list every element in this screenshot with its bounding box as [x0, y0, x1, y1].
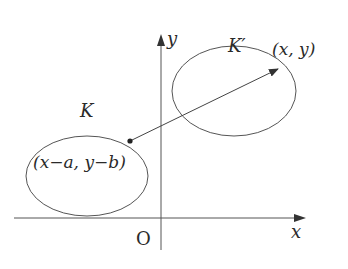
- y-axis-label: y: [166, 28, 178, 49]
- region-k-prime-label: K′: [227, 35, 246, 56]
- translation-diagram: y x O K K′ (x−a, y−b) (x, y): [0, 0, 348, 269]
- original-point-dot: [127, 138, 132, 143]
- region-k-label: K: [79, 100, 95, 121]
- y-axis-arrowhead-icon: [157, 34, 165, 46]
- original-point-label: (x−a, y−b): [33, 152, 126, 172]
- origin-label: O: [136, 228, 151, 249]
- x-axis: [14, 214, 306, 222]
- image-point-label: (x, y): [272, 39, 315, 59]
- region-k-prime-ellipse: [172, 46, 296, 136]
- region-k-ellipse: [26, 136, 148, 216]
- x-axis-label: x: [291, 221, 301, 242]
